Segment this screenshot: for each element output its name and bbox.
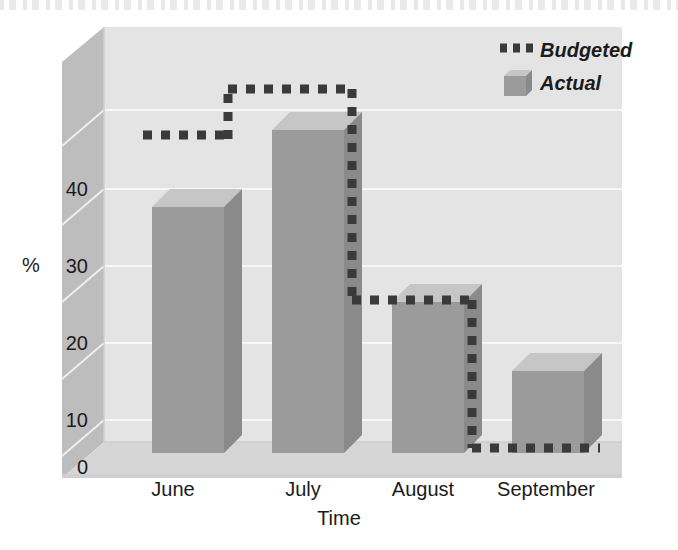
bar-chart-figure: 40 30 20 10 0 % June July August Septemb… [0,0,678,550]
legend-actual-marker [504,70,532,96]
bar-september[interactable] [512,353,602,453]
y-tick-20: 20 [48,333,88,353]
legend-actual-label: Actual [540,73,601,93]
bar-june-front [152,207,224,453]
y-tick-10: 10 [48,410,88,430]
bar-july-front [272,130,344,453]
y-tick-40: 40 [48,179,88,199]
y-tick-30: 30 [48,256,88,276]
bar-june[interactable] [152,189,242,453]
bar-august-front [392,302,464,453]
y-axis-title: % [22,255,40,275]
x-tick-september: September [476,479,616,499]
x-tick-july: July [248,479,358,499]
legend-budgeted-label: Budgeted [540,40,632,60]
bar-june-side [224,189,242,453]
x-tick-august: August [368,479,478,499]
bar-september-front [512,371,584,453]
x-tick-june: June [118,479,228,499]
x-axis-title: Time [0,508,678,528]
y-tick-0: 0 [48,457,88,477]
